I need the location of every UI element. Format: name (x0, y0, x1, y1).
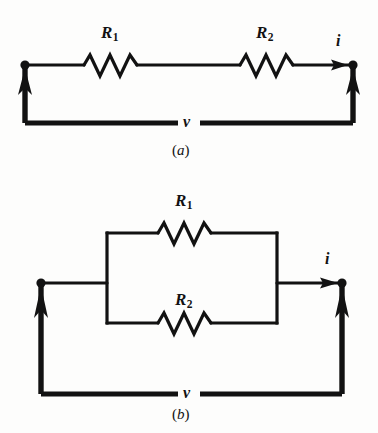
caption-a: (a) (172, 142, 190, 159)
circuit-drawing-canvas (0, 0, 378, 433)
node-a-left-dot (20, 60, 29, 69)
label-b-r2-symbol: R (175, 290, 186, 309)
resistor-b-r1-zigzag (158, 223, 211, 244)
label-a-r2-subscript: 2 (267, 31, 273, 43)
node-a-right-dot (348, 60, 357, 69)
label-b-r1-subscript: 1 (186, 199, 192, 211)
circuit-figure: R1 R2 i v (a) R1 R2 i v (b) (0, 0, 378, 433)
resistor-b-r2-zigzag (158, 313, 211, 334)
label-a-r1: R1 (101, 23, 119, 43)
caption-b: (b) (172, 406, 190, 423)
label-a-voltage: v (183, 113, 190, 131)
resistor-a-r1-zigzag (84, 55, 137, 76)
label-b-r1: R1 (175, 191, 193, 211)
caption-a-close: ) (185, 142, 190, 158)
caption-a-letter: a (177, 142, 185, 158)
caption-b-close: ) (185, 406, 190, 422)
label-b-r1-symbol: R (175, 191, 186, 210)
label-a-current: i (336, 32, 340, 50)
resistor-a-r2-zigzag (240, 55, 293, 76)
label-a-r1-symbol: R (101, 23, 112, 42)
label-a-r1-subscript: 1 (112, 31, 118, 43)
label-b-voltage: v (183, 384, 190, 402)
label-a-r2-symbol: R (256, 23, 267, 42)
caption-b-letter: b (177, 406, 185, 422)
label-b-r2-subscript: 2 (186, 298, 192, 310)
node-b-left-dot (36, 278, 45, 287)
node-b-right-dot (337, 278, 346, 287)
label-b-current: i (325, 250, 329, 268)
label-b-r2: R2 (175, 290, 193, 310)
label-a-r2: R2 (256, 23, 274, 43)
